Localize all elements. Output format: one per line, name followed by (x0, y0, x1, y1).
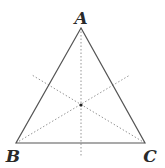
triangle-diagram: A B C (0, 0, 165, 168)
vertex-label-b: B (5, 146, 20, 166)
centroid-point (79, 103, 82, 106)
vertex-label-a: A (72, 8, 87, 28)
vertex-label-c: C (143, 146, 157, 166)
triangle-abc (16, 28, 145, 143)
